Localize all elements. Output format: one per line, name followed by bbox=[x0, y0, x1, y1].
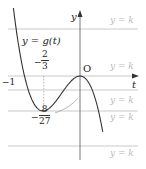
yk-label-5: y = k bbox=[110, 149, 134, 158]
frac-827-den: 27 bbox=[39, 116, 50, 126]
frac-23-den: 3 bbox=[41, 61, 49, 71]
yk-label-3: y = k bbox=[110, 96, 134, 105]
graph bbox=[0, 0, 146, 169]
function-label: y = g(t) bbox=[22, 36, 61, 46]
frac-827-num: 8 bbox=[39, 105, 50, 116]
frac-23-num: 2 bbox=[41, 50, 49, 61]
t-axis-arrow-icon bbox=[132, 74, 139, 79]
yk-label-4: y = k bbox=[110, 113, 134, 122]
frac-827-minus: − bbox=[31, 112, 39, 122]
frac-neg-2-3: 2 3 bbox=[41, 50, 49, 71]
y-axis-arrow-icon bbox=[78, 10, 83, 17]
origin-label: O bbox=[83, 64, 91, 74]
yk-label-1: y = k bbox=[110, 16, 134, 25]
neg-one-label: −1 bbox=[2, 78, 15, 87]
yk-label-2: y = k bbox=[110, 62, 134, 71]
y-axis-label: y bbox=[71, 12, 77, 22]
frac-neg-8-27: 8 27 bbox=[39, 105, 50, 126]
t-axis-label: t bbox=[132, 80, 136, 90]
